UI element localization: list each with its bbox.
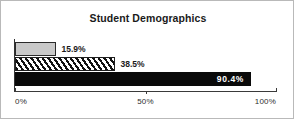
bar-series-1 <box>15 42 56 56</box>
chart-title: Student Demographics <box>1 12 294 24</box>
bar-label-series-1: 15.9% <box>56 44 85 54</box>
chart-figure: Student Demographics 15.9% 38.5% 90.4% 0… <box>0 0 294 119</box>
plot-area: 15.9% 38.5% 90.4% <box>15 39 276 91</box>
x-axis-label-50: 50% <box>137 97 154 106</box>
bar-series-3 <box>15 72 251 86</box>
bar-label-series-2: 38.5% <box>115 59 144 69</box>
x-axis-tick <box>276 88 277 92</box>
x-axis-tick <box>15 88 16 92</box>
x-axis-label-0: 0% <box>15 97 27 106</box>
bar-series-2 <box>15 57 115 71</box>
x-axis-label-100: 100% <box>255 97 276 106</box>
bar-label-series-3: 90.4% <box>217 74 251 84</box>
x-axis-tick <box>146 91 147 94</box>
